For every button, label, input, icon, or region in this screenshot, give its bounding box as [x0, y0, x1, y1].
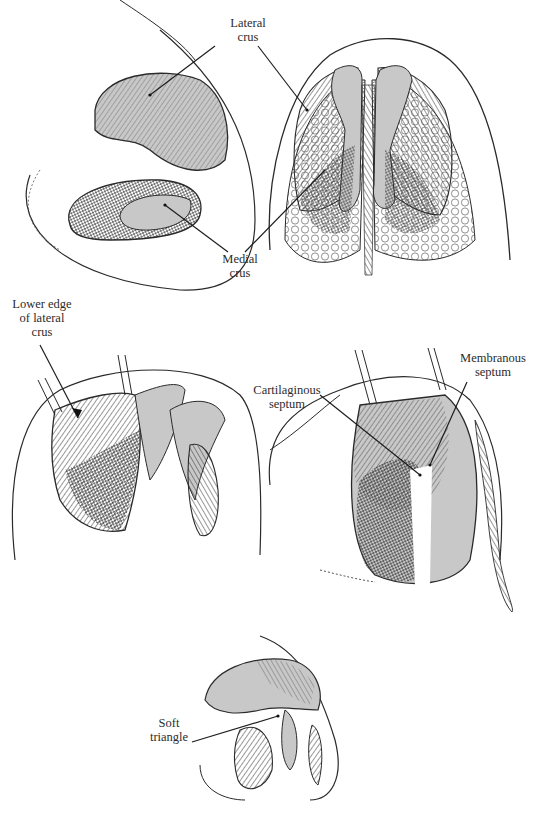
panel-basal-view — [269, 39, 510, 275]
panel-retracted-lateral-crus-view — [12, 355, 260, 560]
label-soft-triangle: Soft triangle — [143, 716, 195, 744]
label-cartilaginous-septum: Cartilaginous septum — [243, 383, 331, 411]
label-lower-edge-of-lateral-crus: Lower edge of lateral crus — [4, 297, 80, 339]
panel-soft-triangle-view — [200, 636, 338, 800]
label-medial-crus: Medial crus — [205, 252, 275, 280]
label-lateral-crus: Lateral crus — [213, 16, 283, 44]
label-membranous-septum: Membranous septum — [450, 351, 536, 379]
